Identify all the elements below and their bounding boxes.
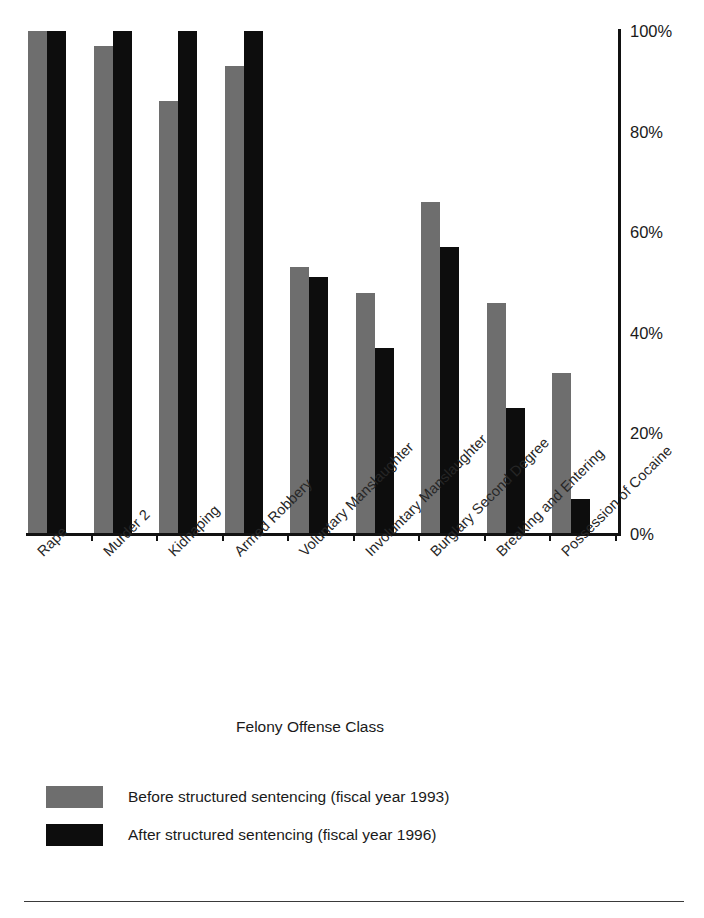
bar-after <box>375 348 394 534</box>
legend-label-before: Before structured sentencing (fiscal yea… <box>128 788 449 806</box>
y-axis-tick-label: 20% <box>630 424 663 443</box>
y-axis-tick-label: 80% <box>630 122 663 141</box>
bar-group <box>28 31 94 534</box>
bar-after <box>47 31 66 534</box>
bar-before <box>225 66 244 534</box>
bar-chart-figure: 0%20%40%60%80%100% RapeMurder 2Kidnaping… <box>0 0 704 918</box>
bar-after <box>178 31 197 534</box>
x-axis-tick <box>418 534 420 541</box>
legend-swatch-before-icon <box>46 786 103 808</box>
bar-group <box>225 31 291 534</box>
x-axis-tick <box>91 534 93 541</box>
bar-after <box>440 247 459 534</box>
bar-group <box>94 31 160 534</box>
bar-before <box>28 31 47 534</box>
bar-after <box>244 31 263 534</box>
x-axis-title: Felony Offense Class <box>0 718 620 736</box>
x-axis-tick <box>222 534 224 541</box>
y-axis-tick-label: 60% <box>630 223 663 242</box>
x-axis-tick <box>615 534 617 541</box>
footer-divider <box>24 901 684 902</box>
y-axis-tick-label: 100% <box>630 22 672 41</box>
bar-before <box>552 373 571 534</box>
y-axis-line <box>618 29 621 536</box>
bar-after <box>113 31 132 534</box>
y-axis-tick-label: 40% <box>630 323 663 342</box>
legend-item-before: Before structured sentencing (fiscal yea… <box>46 778 606 816</box>
cropped-title-remnant <box>0 0 704 2</box>
x-axis-tick <box>156 534 158 541</box>
x-axis-category-labels: RapeMurder 2KidnapingArmed RobberyVolunt… <box>0 534 704 694</box>
x-axis-tick <box>287 534 289 541</box>
bar-before <box>94 46 113 534</box>
bar-after <box>309 277 328 534</box>
x-axis-tick <box>549 534 551 541</box>
bar-before <box>159 101 178 534</box>
bar-group <box>159 31 225 534</box>
bar-group <box>290 31 356 534</box>
x-axis-tick <box>484 534 486 541</box>
legend-item-after: After structured sentencing (fiscal year… <box>46 816 606 854</box>
legend-label-after: After structured sentencing (fiscal year… <box>128 826 436 844</box>
x-axis-tick <box>353 534 355 541</box>
chart-legend: Before structured sentencing (fiscal yea… <box>46 778 606 854</box>
legend-swatch-after-icon <box>46 824 103 846</box>
